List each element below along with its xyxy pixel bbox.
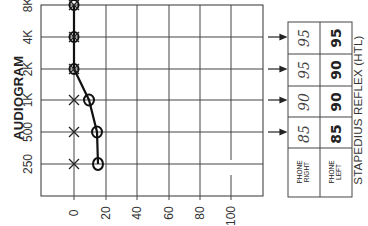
db-label-80: 80 [193,199,207,226]
db-label-20: 20 [99,199,113,226]
reflex-arrows [268,35,286,135]
phone-right-label: PHONERIGHT [296,148,312,196]
phone-right-1k: 90 [294,87,314,117]
freq-label-8k: 8K [21,0,35,19]
db-label-40: 40 [130,199,144,226]
phone-right-2k: 95 [294,55,314,85]
stapedius-reflex-caption: STAPEDIUS REFLEX (HTL) [352,25,366,195]
phone-left-500: 85 [326,119,346,149]
db-label-100: 100 [224,199,238,226]
db-label-60: 60 [162,199,176,226]
freq-label-2k: 2K [21,55,35,83]
phone-right-4k: 95 [294,23,314,53]
phone-left-2k: 90 [326,55,346,85]
right-ear-line [74,5,98,164]
db-label-0: 0 [67,199,81,226]
freq-label-500: 500 [21,118,35,146]
phone-right-500: 85 [294,119,314,149]
freq-label-250: 250 [21,150,35,178]
freq-label-4k: 4K [21,23,35,51]
phone-left-label: PHONELEFT [328,148,344,196]
phone-left-4k: 95 [326,23,346,53]
phone-left-1k: 90 [326,87,346,117]
freq-label-1k: 1K [21,86,35,114]
